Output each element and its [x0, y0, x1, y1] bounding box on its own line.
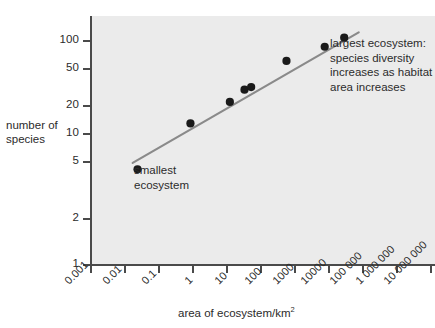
x-axis-title-text: area of ecosystem/km	[178, 307, 290, 319]
x-tick-mark	[226, 266, 228, 273]
y-axis-title-line1: number of	[6, 118, 80, 132]
y-axis-line	[90, 16, 92, 266]
x-tick-mark	[90, 266, 92, 273]
x-axis-title-superscript: 2	[290, 305, 294, 314]
x-tick-mark	[430, 266, 432, 273]
y-tick-mark	[83, 161, 90, 163]
y-tick-mark	[83, 133, 90, 135]
species-area-chart: 100 50 20 10 5 2 1 number of species 0.0…	[0, 0, 435, 328]
x-tick-mark	[328, 266, 330, 273]
y-axis-title-line2: species	[6, 132, 80, 146]
y-tick-mark	[83, 40, 90, 42]
y-tick-label: 20	[66, 98, 79, 110]
x-tick-mark	[192, 266, 194, 273]
x-tick-label: 0.001	[62, 258, 90, 286]
y-tick-mark	[83, 218, 90, 220]
y-tick-label: 50	[66, 61, 79, 73]
y-tick-label: 2	[73, 211, 80, 223]
x-axis-title: area of ecosystem/km2	[178, 305, 295, 319]
y-axis-title: number of species	[6, 118, 80, 146]
annotation-largest-ecosystem: largest ecosystem: species diversity inc…	[330, 36, 435, 94]
annotation-smallest-ecosystem: smallest ecosystem	[134, 163, 224, 192]
x-tick-label: 0.01	[100, 263, 124, 287]
y-tick-mark	[83, 68, 90, 70]
y-tick-label: 100	[60, 33, 80, 45]
x-tick-mark	[158, 266, 160, 273]
x-tick-label: 0.1	[139, 267, 159, 287]
x-tick-mark	[124, 266, 126, 273]
y-tick-label: 5	[73, 154, 80, 166]
x-tick-label: 1	[182, 274, 195, 287]
y-tick-mark	[83, 105, 90, 107]
